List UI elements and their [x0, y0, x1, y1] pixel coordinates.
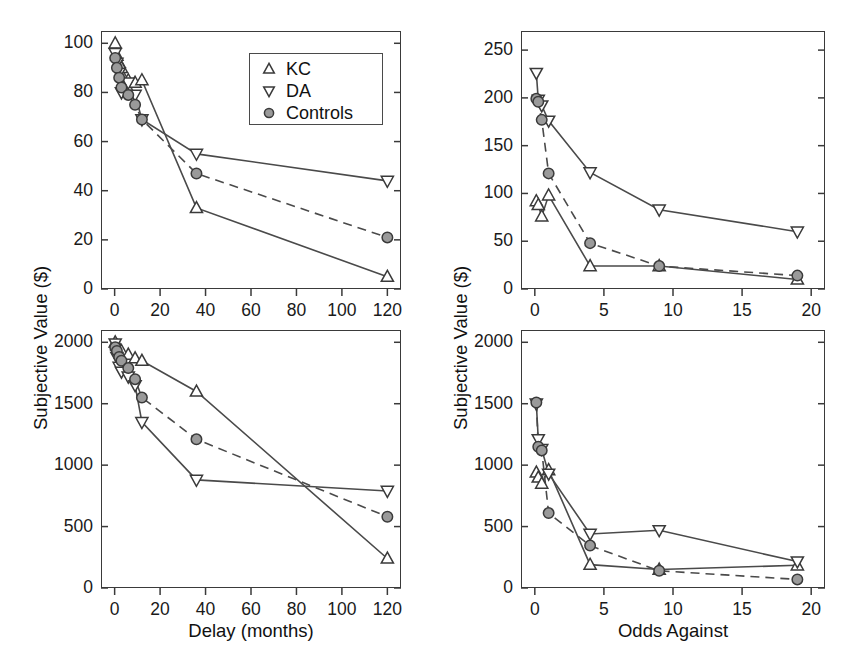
triangle-up-open-icon	[258, 59, 280, 79]
plot-frame-bottom-right	[521, 330, 825, 588]
legend-label: DA	[286, 82, 311, 100]
legend-marker-svg	[259, 60, 279, 78]
legend-entry-da: DA	[258, 80, 372, 102]
xtick-label-bottom-right: 15	[732, 601, 751, 619]
ytick-label-bottom-right: 1000	[457, 456, 513, 474]
marker-circle-icon	[264, 108, 273, 117]
circle-filled-icon	[258, 103, 280, 123]
legend-entry-controls: Controls	[258, 102, 372, 124]
xtick-label-bottom-right: 10	[663, 601, 682, 619]
x-axis-title-left: Delay (months)	[188, 620, 313, 642]
marker-triangle-down-icon	[264, 87, 275, 97]
legend-entry-kc: KC	[258, 58, 372, 80]
legend-marker-group	[264, 63, 275, 73]
figure-root: 0204060801000204060801001200500100015002…	[0, 0, 855, 667]
legend-marker-svg	[259, 82, 279, 100]
legend-marker-svg	[259, 104, 279, 122]
legend-marker-group	[264, 108, 273, 117]
panel-bottom-right: 050010001500200005101520	[0, 0, 855, 667]
xtick-label-bottom-right: 0	[530, 601, 540, 619]
y-axis-title-left: Subjective Value ($)	[30, 266, 52, 430]
xtick-label-bottom-right: 20	[801, 601, 820, 619]
legend-label: Controls	[286, 104, 353, 122]
xtick-label-bottom-right: 5	[599, 601, 609, 619]
ytick-label-bottom-right: 0	[457, 579, 513, 597]
x-axis-title-right: Odds Against	[618, 620, 728, 642]
y-axis-title-right: Subjective Value ($)	[450, 266, 472, 430]
legend-label: KC	[286, 60, 311, 78]
marker-triangle-up-icon	[264, 63, 275, 73]
legend: KCDAControls	[249, 53, 383, 125]
ytick-label-bottom-right: 500	[457, 518, 513, 536]
triangle-down-open-icon	[258, 81, 280, 101]
legend-marker-group	[264, 87, 275, 97]
